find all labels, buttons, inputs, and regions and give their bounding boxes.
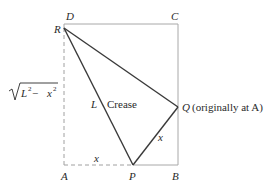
label-c: C bbox=[171, 10, 179, 22]
label-b: B bbox=[172, 170, 179, 182]
label-a: A bbox=[60, 170, 68, 182]
fold-edge-qp bbox=[133, 107, 178, 165]
crease-diagram: D C R A P B Q (originally at A) L Crease… bbox=[0, 0, 269, 186]
sqrt-minus: − bbox=[32, 87, 38, 99]
label-p: P bbox=[128, 170, 136, 182]
sqrt-l: L bbox=[20, 87, 27, 99]
label-x-slant: x bbox=[157, 131, 163, 143]
label-q: Q bbox=[182, 101, 190, 113]
sqrt-expression: L 2 − x 2 bbox=[9, 83, 58, 100]
label-q-note: (originally at A) bbox=[192, 101, 263, 114]
label-l: L bbox=[90, 98, 97, 110]
sqrt-x: x bbox=[46, 87, 52, 99]
crease-line-rp bbox=[64, 28, 133, 165]
label-d: D bbox=[65, 10, 74, 22]
label-crease: Crease bbox=[107, 98, 137, 110]
label-r: R bbox=[53, 23, 61, 35]
fold-edge-rq bbox=[64, 28, 178, 107]
sqrt-x-exp: 2 bbox=[53, 85, 57, 93]
label-x-bottom: x bbox=[93, 152, 99, 164]
